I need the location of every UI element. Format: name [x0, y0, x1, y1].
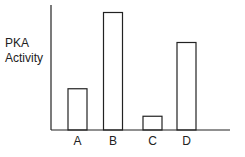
- bar-chart: ABCD: [0, 0, 245, 157]
- x-tick-label-c: C: [148, 134, 157, 148]
- bar-b: [104, 13, 123, 131]
- bars-group: [68, 13, 196, 131]
- x-tick-labels: ABCD: [73, 134, 191, 148]
- bar-d: [177, 43, 196, 131]
- x-tick-label-b: B: [109, 134, 117, 148]
- x-tick-label-a: A: [73, 134, 81, 148]
- x-tick-label-d: D: [182, 134, 191, 148]
- bar-a: [68, 89, 87, 130]
- bar-c: [143, 116, 162, 130]
